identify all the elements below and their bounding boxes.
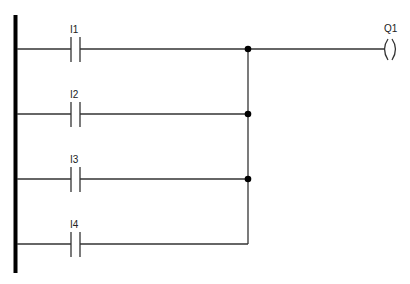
contact-label-i1: I1	[70, 25, 78, 35]
rung-2	[17, 102, 248, 127]
rung-3	[17, 167, 248, 192]
coil-label-q1: Q1	[384, 24, 397, 34]
contact-label-i2: I2	[70, 90, 78, 100]
junction-dot	[245, 111, 252, 118]
rung-1	[17, 37, 384, 62]
contact-label-i4: I4	[70, 220, 78, 230]
left-power-rail	[14, 15, 18, 273]
rung-4	[17, 232, 248, 257]
contact-label-i3: I3	[70, 155, 78, 165]
junction-dot	[245, 176, 252, 183]
ladder-diagram	[0, 0, 410, 284]
coil-q1	[385, 39, 396, 60]
junction-dot	[245, 46, 252, 53]
